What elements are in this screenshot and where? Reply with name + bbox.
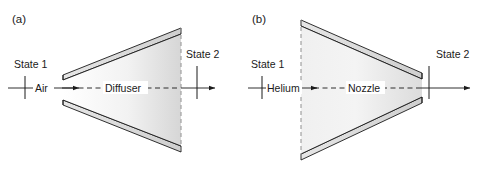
nozzle-fluid-label: Helium xyxy=(267,82,300,94)
panel-a-tag: (a) xyxy=(12,13,26,25)
diffuser-device-label: Diffuser xyxy=(105,82,141,94)
diffuser-fluid-label: Air xyxy=(35,82,48,94)
diffuser-state1-label: State 1 xyxy=(14,58,47,70)
nozzle-state2-label: State 2 xyxy=(436,48,469,60)
diffuser-state2-label: State 2 xyxy=(186,48,219,60)
panel-a-group: (a) State 1 xyxy=(8,13,219,152)
nozzle-state1-label: State 1 xyxy=(251,58,284,70)
panel-b-tag: (b) xyxy=(252,13,266,25)
thermodynamics-device-diagram: (a) State 1 xyxy=(0,0,492,172)
panel-b-group: (b) State 1 xyxy=(248,13,470,160)
nozzle-device-label: Nozzle xyxy=(348,82,380,94)
figure-root: (a) State 1 xyxy=(0,0,492,172)
